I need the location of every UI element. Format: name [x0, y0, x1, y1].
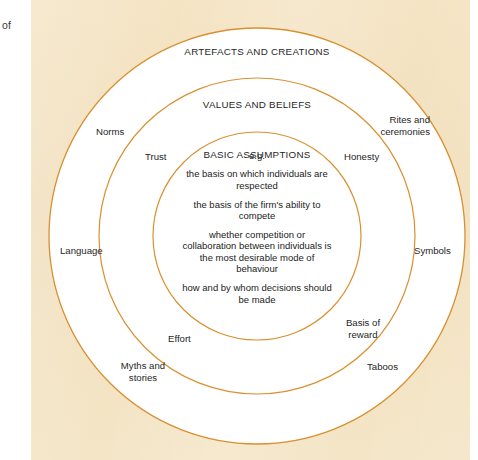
core-assumptions-text: e.g. the basis on which individuals are …: [181, 150, 333, 305]
core-eg: e.g.: [181, 150, 333, 161]
label-basis-of-reward: Basis of reward: [334, 317, 392, 340]
label-honesty: Honesty: [344, 151, 379, 163]
core-item-1: the basis of the firm's ability to compe…: [181, 199, 333, 222]
core-item-3: how and by whom decisions should be made: [181, 282, 333, 305]
label-myths-text: Myths and stories: [121, 360, 165, 383]
middle-ring-title: VALUES AND BELIEFS: [203, 99, 311, 110]
outer-ring-title: ARTEFACTS AND CREATIONS: [184, 46, 329, 57]
figure-root: of ARTEFACTS AND CREATIONS VALUES AND BE…: [0, 0, 478, 460]
label-taboos: Taboos: [367, 361, 398, 373]
label-language: Language: [60, 245, 103, 257]
label-rites-and-ceremonies: Rites and ceremonies: [374, 114, 430, 137]
label-norms: Norms: [96, 126, 124, 138]
label-rites-line1: Rites and ceremonies: [380, 114, 430, 137]
label-symbols: Symbols: [414, 245, 451, 257]
label-basis-text: Basis of reward: [346, 317, 380, 340]
label-trust: Trust: [145, 151, 167, 163]
label-myths-and-stories: Myths and stories: [112, 360, 174, 383]
label-effort: Effort: [168, 333, 191, 345]
core-item-2: whether competition or collaboration bet…: [181, 229, 333, 275]
core-item-0: the basis on which individuals are respe…: [181, 168, 333, 191]
